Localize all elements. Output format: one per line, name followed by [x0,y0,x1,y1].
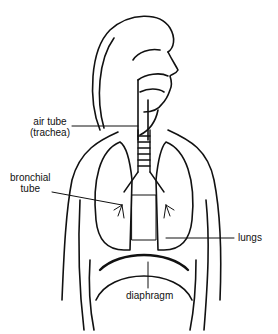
left-lung [95,142,132,250]
air-tube-label-line1: air tube [30,116,70,127]
hair-outline [93,16,174,130]
pointer-bronchial [52,192,122,205]
label-air-tube: air tube (trachea) [30,116,70,138]
label-bronchial-tube: bronchial tube [10,172,51,194]
respiratory-diagram [0,0,278,334]
right-lung [156,142,193,250]
bronchial-label-line1: bronchial [10,172,51,183]
body-outline-right [168,130,221,300]
air-tube-label-line2: (trachea) [30,127,70,138]
diaphragm-outline [100,255,188,270]
label-lungs: lungs [238,232,262,243]
label-diaphragm: diaphragm [126,290,173,301]
bronchial-label-line2: tube [10,183,51,194]
face-profile [144,52,178,112]
